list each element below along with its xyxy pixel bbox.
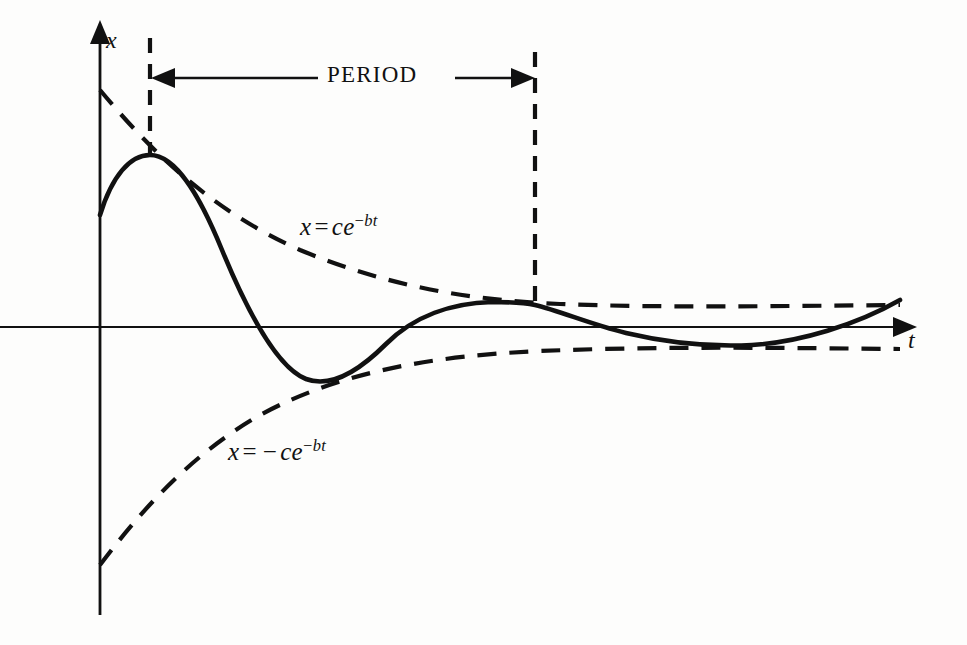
upper-env-exp-minus: − [355, 211, 365, 230]
lower-env-base: ce [280, 438, 303, 465]
damped-oscillation-figure: x t PERIOD x=ce−bt x=−ce−bt [0, 0, 967, 645]
vertical-axis [90, 20, 110, 615]
lower-env-equals: = [239, 438, 259, 465]
upper-env-exp-body: bt [364, 211, 377, 230]
lower-env-lhs: x [228, 438, 239, 465]
figure-canvas [0, 0, 967, 645]
lower-env-sign: − [260, 438, 280, 465]
period-label: PERIOD [327, 63, 417, 86]
upper-envelope-curve [100, 90, 900, 306]
lower-envelope-curve [100, 348, 900, 565]
lower-env-exp-minus: − [303, 436, 313, 455]
lower-envelope-label: x=−ce−bt [228, 438, 326, 464]
upper-env-lhs: x [300, 213, 311, 240]
upper-envelope-label: x=ce−bt [300, 213, 378, 239]
upper-env-base: ce [332, 213, 355, 240]
axis-label-x: x [106, 28, 117, 52]
upper-env-equals: = [311, 213, 331, 240]
horizontal-axis [0, 317, 917, 337]
axis-label-t: t [908, 328, 915, 352]
lower-env-exp-body: bt [313, 436, 326, 455]
